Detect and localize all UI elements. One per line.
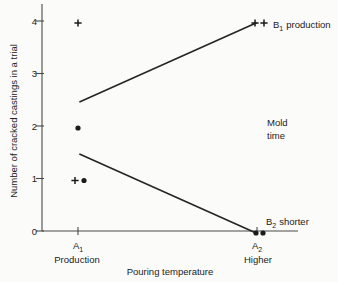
data-point-dot	[81, 178, 86, 183]
data-point-plus	[260, 19, 267, 26]
y-tick-label-3: 3	[20, 69, 37, 79]
data-point-dot	[260, 230, 265, 235]
series-b2-sub: 2	[272, 222, 276, 229]
data-point-plus	[74, 19, 81, 26]
x-tick-label-a1: A1	[68, 240, 88, 253]
y-tick-label-2: 2	[20, 122, 37, 132]
series-label-b1: B1production	[273, 19, 331, 32]
data-point-plus	[71, 177, 78, 184]
y-tick-label-4: 4	[20, 17, 37, 27]
x-tick-label-a2: A2	[247, 240, 267, 253]
interaction-plot-figure: Number of cracked castings in a trial 4 …	[0, 0, 338, 282]
series-b1-rest: production	[286, 19, 330, 30]
series-b1-sub: 1	[279, 25, 283, 32]
annotation-line-1: Mold	[267, 116, 288, 129]
data-point-plus	[251, 19, 258, 26]
x-tick-a1-sub: 1	[79, 246, 83, 253]
data-point-dot	[75, 125, 80, 130]
series-label-b2: B2shorter	[266, 216, 309, 229]
y-tick-label-1: 1	[20, 174, 37, 184]
annotation-mold-time: Mold time	[267, 116, 288, 142]
annotation-line-2: time	[267, 129, 288, 142]
series-line-b1	[80, 23, 256, 102]
x-axis-title: Pouring temperature	[115, 266, 225, 277]
y-tick-label-0: 0	[20, 227, 37, 237]
x-sublabel-higher: Higher	[228, 254, 288, 265]
series-b2-rest: shorter	[279, 216, 309, 227]
series-line-b2	[80, 154, 256, 233]
y-axis-title: Number of cracked castings in a trial	[8, 44, 19, 198]
x-tick-a2-sub: 2	[258, 246, 262, 253]
x-sublabel-production: Production	[42, 254, 112, 265]
data-point-dot	[253, 230, 258, 235]
